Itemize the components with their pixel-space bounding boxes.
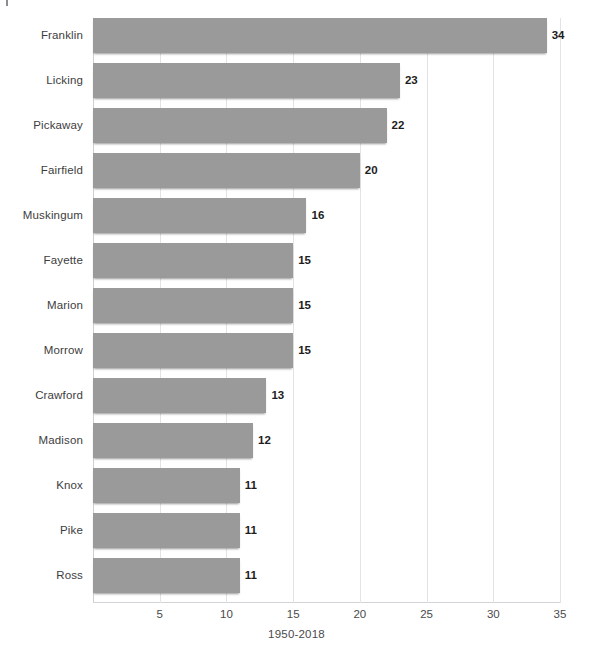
bar-value-label: 12 bbox=[253, 423, 271, 458]
bar[interactable] bbox=[93, 468, 240, 503]
bar[interactable] bbox=[93, 63, 400, 98]
bar-row[interactable]: Marion15 bbox=[93, 288, 560, 333]
bar-value-label: 23 bbox=[400, 63, 418, 98]
category-label: Ross bbox=[56, 558, 83, 593]
bar-row[interactable]: Knox11 bbox=[93, 468, 560, 513]
x-tick-label: 15 bbox=[273, 608, 313, 620]
x-tick-label: 5 bbox=[140, 608, 180, 620]
bar-row[interactable]: Muskingum16 bbox=[93, 198, 560, 243]
bar-row[interactable]: Madison12 bbox=[93, 423, 560, 468]
bar[interactable] bbox=[93, 198, 306, 233]
bar-row[interactable]: Pike11 bbox=[93, 513, 560, 558]
bar[interactable] bbox=[93, 18, 547, 53]
bar-value-label: 11 bbox=[240, 468, 257, 503]
bar[interactable] bbox=[93, 108, 387, 143]
category-label: Fairfield bbox=[41, 153, 83, 188]
bar-row[interactable]: Pickaway22 bbox=[93, 108, 560, 153]
bar-row[interactable]: Fayette15 bbox=[93, 243, 560, 288]
category-label: Franklin bbox=[41, 18, 83, 53]
bar[interactable] bbox=[93, 378, 266, 413]
plot-area: Franklin34Licking23Pickaway22Fairfield20… bbox=[93, 18, 560, 603]
bar-value-label: 16 bbox=[306, 198, 324, 233]
category-label: Marion bbox=[47, 288, 83, 323]
bar-row[interactable]: Licking23 bbox=[93, 63, 560, 108]
category-label: Pickaway bbox=[33, 108, 83, 143]
bar-value-label: 13 bbox=[266, 378, 284, 413]
gridline bbox=[560, 18, 561, 603]
bar-value-label: 15 bbox=[293, 333, 311, 368]
bar-value-label: 15 bbox=[293, 243, 311, 278]
bar[interactable] bbox=[93, 423, 253, 458]
x-tick-label: 30 bbox=[473, 608, 513, 620]
category-label: Knox bbox=[56, 468, 83, 503]
category-label: Licking bbox=[46, 63, 83, 98]
x-tick-label: 35 bbox=[540, 608, 580, 620]
bar[interactable] bbox=[93, 153, 360, 188]
bar-chart: Franklin34Licking23Pickaway22Fairfield20… bbox=[0, 0, 593, 663]
bar-value-label: 20 bbox=[360, 153, 378, 188]
cropped-title-remnant bbox=[6, 0, 176, 7]
bar[interactable] bbox=[93, 333, 293, 368]
x-tick-label: 10 bbox=[206, 608, 246, 620]
bar-value-label: 34 bbox=[547, 18, 565, 53]
bar[interactable] bbox=[93, 243, 293, 278]
bar-value-label: 11 bbox=[240, 513, 257, 548]
bar-value-label: 22 bbox=[387, 108, 405, 143]
bar-value-label: 11 bbox=[240, 558, 257, 593]
bar-value-label: 15 bbox=[293, 288, 311, 323]
bar-row[interactable]: Crawford13 bbox=[93, 378, 560, 423]
bar-row[interactable]: Ross11 bbox=[93, 558, 560, 603]
x-axis-title: 1950-2018 bbox=[0, 628, 593, 640]
x-tick-label: 20 bbox=[340, 608, 380, 620]
x-tick-label: 25 bbox=[407, 608, 447, 620]
crop-artifact-mark bbox=[6, 0, 8, 6]
category-label: Crawford bbox=[35, 378, 83, 413]
bar[interactable] bbox=[93, 558, 240, 593]
bar-row[interactable]: Morrow15 bbox=[93, 333, 560, 378]
category-label: Madison bbox=[38, 423, 83, 458]
bar-row[interactable]: Fairfield20 bbox=[93, 153, 560, 198]
category-label: Pike bbox=[60, 513, 83, 548]
bar-row[interactable]: Franklin34 bbox=[93, 18, 560, 63]
bar[interactable] bbox=[93, 513, 240, 548]
category-label: Muskingum bbox=[23, 198, 83, 233]
category-label: Morrow bbox=[44, 333, 83, 368]
bar[interactable] bbox=[93, 288, 293, 323]
category-label: Fayette bbox=[44, 243, 83, 278]
